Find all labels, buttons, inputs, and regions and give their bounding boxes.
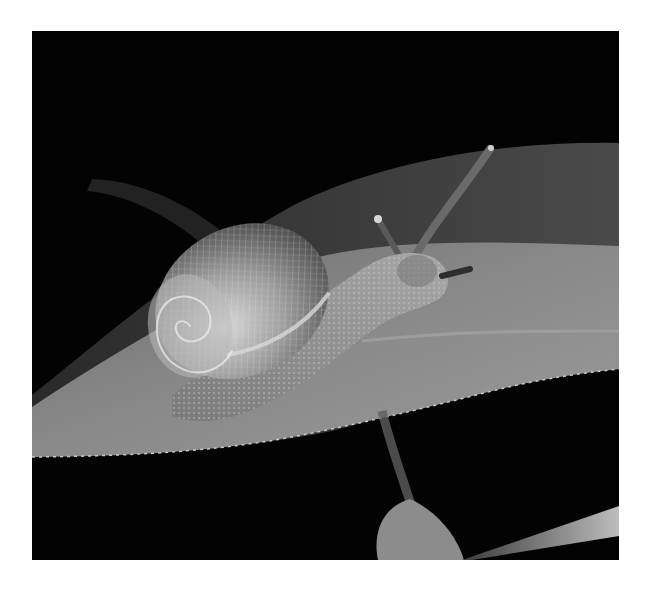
snail-photograph: Black-and-white photograph of a garden s… [32,31,619,560]
right-stem [462,506,619,560]
lower-leaf [376,499,464,560]
photo-illustration [32,31,619,560]
